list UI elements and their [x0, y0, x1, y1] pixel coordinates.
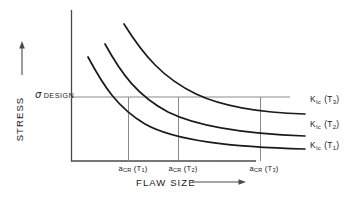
- tick-sub-3: CR: [254, 167, 262, 173]
- tick-paren-close-3: ): [276, 164, 279, 173]
- y-axis-arrow-icon: [19, 41, 25, 75]
- x-axis-title: FLAW SIZE: [136, 178, 196, 188]
- curve-paren-close-t1: ): [336, 140, 339, 150]
- tick-sub-2: CR: [173, 167, 181, 173]
- curve-label-sub-t3: Ic: [316, 99, 321, 105]
- design-stress-label: σDESIGN: [35, 90, 74, 100]
- x-tick-label-a-cr-t1: aCR (T1): [119, 165, 148, 174]
- curve-k1c-t2: [105, 44, 305, 136]
- curve-label-k1c-t2: KIc(T2): [310, 120, 339, 130]
- curve-label-sub-t2: Ic: [316, 124, 321, 130]
- x-axis-arrow-icon: [192, 179, 246, 185]
- tick-paren-close-1: ): [145, 164, 148, 173]
- curve-paren-close-t3: ): [336, 94, 339, 104]
- sigma-symbol: σ: [35, 89, 42, 100]
- x-tick-label-a-cr-t3: aCR (T3): [250, 165, 279, 174]
- tick-sub-1: CR: [123, 167, 131, 173]
- x-tick-label-a-cr-t2: aCR (T2): [169, 165, 198, 174]
- curve-label-sub-t1: Ic: [316, 145, 321, 151]
- curve-paren-close-t2: ): [336, 119, 339, 129]
- sigma-subscript: DESIGN: [44, 91, 75, 100]
- fracture-mechanics-chart: STRESS FLAW SIZE σDESIGN aCR (T1) aCR (T…: [0, 0, 357, 197]
- curve-label-k1c-t3: KIc(T3): [310, 95, 339, 105]
- y-axis-title: STRESS: [15, 89, 29, 149]
- tick-paren-close-2: ): [195, 164, 198, 173]
- curve-label-k1c-t1: KIc(T1): [310, 141, 339, 151]
